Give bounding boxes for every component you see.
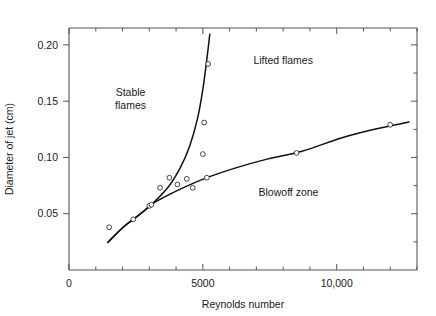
data-point <box>200 152 205 157</box>
data-point <box>184 176 189 181</box>
data-point <box>206 62 211 67</box>
x-tick-label: 5000 <box>191 277 215 289</box>
flame-stability-chart: 0500010,000 0.050.100.150.20 Stableflame… <box>0 0 436 316</box>
data-point <box>131 217 136 222</box>
data-point <box>294 151 299 156</box>
y-tick-label: 0.05 <box>38 207 59 219</box>
data-point <box>107 225 112 230</box>
data-point <box>204 175 209 180</box>
x-tick-label: 10,000 <box>321 277 353 289</box>
zone-label-blowoff-zone: Blowoff zone <box>259 186 319 198</box>
data-point <box>158 185 163 190</box>
data-point <box>167 175 172 180</box>
chart-background <box>0 0 436 316</box>
chart-figure: 0500010,000 0.050.100.150.20 Stableflame… <box>0 0 436 316</box>
y-tick-label: 0.10 <box>38 151 59 163</box>
y-tick-label: 0.15 <box>38 95 59 107</box>
data-point <box>202 120 207 125</box>
data-point <box>175 182 180 187</box>
x-axis-title: Reynolds number <box>202 298 285 310</box>
data-point <box>190 185 195 190</box>
zone-label-stable-flames: Stableflames <box>115 86 146 111</box>
x-tick-label: 0 <box>66 277 72 289</box>
data-point <box>149 202 154 207</box>
zone-label-lifted-flames: Lifted flames <box>253 54 313 66</box>
y-axis-title: Diameter of jet (cm) <box>3 103 15 195</box>
data-point <box>388 122 393 127</box>
y-tick-label: 0.20 <box>38 39 59 51</box>
